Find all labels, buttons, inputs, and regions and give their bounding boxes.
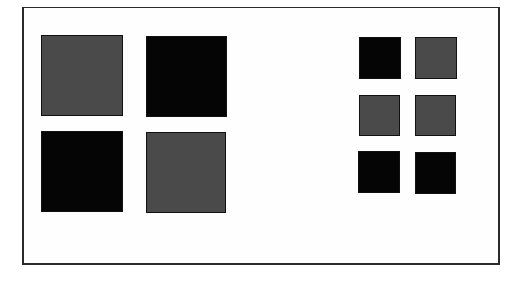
large-square-r2-c1	[41, 131, 123, 212]
small-square-r3-c1	[358, 151, 400, 193]
small-square-r1-c1	[359, 37, 401, 79]
small-square-r3-c2	[415, 152, 456, 194]
small-square-r2-c2	[415, 95, 456, 136]
small-square-r2-c1	[359, 95, 400, 136]
large-square-r1-c2	[146, 36, 227, 117]
small-square-r1-c2	[415, 37, 457, 79]
large-square-r1-c1	[41, 35, 123, 116]
large-square-r2-c2	[146, 132, 226, 213]
